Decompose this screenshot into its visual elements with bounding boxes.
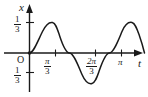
x-axis-label: t: [138, 58, 141, 69]
fraction-numerator: 1: [14, 66, 21, 75]
y-axis-label: x: [19, 2, 24, 13]
fraction-one-third: 1 3: [14, 15, 21, 35]
x-tick-label-pi-over-3: π 3: [44, 57, 51, 77]
function-graph-figure: x t O 1 3 1 3 π 3 2π 3 π: [0, 0, 148, 97]
fraction-one-third-negative: 1 3: [14, 66, 21, 86]
fraction-denominator: 3: [86, 66, 97, 76]
fraction-2pi-over-3: 2π 3: [86, 57, 97, 77]
fraction-numerator: 2π: [86, 57, 97, 66]
fraction-numerator: π: [44, 57, 51, 66]
fraction-denominator: 3: [14, 24, 21, 34]
fraction-denominator: 3: [14, 75, 21, 85]
fraction-denominator: 3: [44, 66, 51, 76]
y-tick-label-positive: 1 3: [14, 15, 21, 35]
fraction-pi-over-3: π 3: [44, 57, 51, 77]
plot-area: [0, 0, 148, 97]
y-tick-label-negative: 1 3: [14, 66, 21, 86]
x-tick-label-2pi-over-3: 2π 3: [86, 57, 97, 77]
fraction-numerator: 1: [14, 15, 21, 24]
origin-label: O: [17, 55, 24, 65]
x-axis: [26, 4, 33, 92]
x-tick-label-pi: π: [118, 58, 123, 67]
